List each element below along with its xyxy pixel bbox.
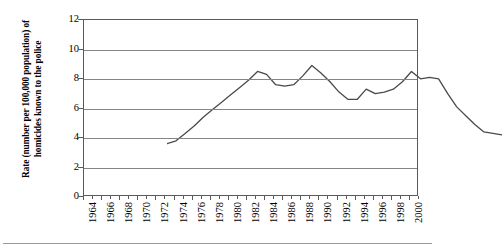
- x-axis-tick-mark: [346, 196, 347, 199]
- x-axis-tick-label: 1972: [159, 202, 170, 223]
- x-axis-tick-label: 1984: [268, 202, 279, 223]
- y-axis-tick-label: 10: [57, 44, 79, 54]
- x-axis-tick-mark: [128, 196, 129, 199]
- y-axis-tick-label: 4: [57, 132, 79, 142]
- x-axis-tick-mark: [291, 196, 292, 199]
- x-axis-tick-label: 1970: [141, 202, 152, 223]
- y-axis-tick-label: 12: [57, 14, 79, 24]
- x-axis-tick-mark: [273, 196, 274, 199]
- x-axis-tick-label: 1980: [232, 202, 243, 223]
- x-axis-tick-mark: [309, 196, 310, 199]
- x-axis-tick-mark: [373, 196, 374, 200]
- x-axis-tick-mark: [137, 196, 138, 200]
- x-axis-tick-mark: [355, 196, 356, 200]
- x-axis-tick-label: 1988: [304, 202, 315, 223]
- y-axis-tick-label: 8: [57, 73, 79, 83]
- y-axis-tick-mark: [78, 167, 83, 168]
- x-axis-tick-mark: [418, 196, 419, 199]
- x-axis-tick-mark: [146, 196, 147, 199]
- x-axis-tick-label: 1968: [123, 202, 134, 223]
- x-axis-tick-mark: [201, 196, 202, 199]
- x-axis-tick-mark: [83, 196, 84, 200]
- x-axis-tick-mark: [400, 196, 401, 199]
- x-axis-tick-label: 1996: [377, 202, 388, 223]
- x-axis-tick-mark: [327, 196, 328, 199]
- x-axis-tick-mark: [219, 196, 220, 199]
- x-axis-tick-mark: [92, 196, 93, 199]
- y-axis-tick-mark: [78, 49, 83, 50]
- x-axis-tick-mark: [183, 196, 184, 199]
- x-axis-tick-label: 1992: [341, 202, 352, 223]
- x-axis-tick-label: 1986: [286, 202, 297, 223]
- x-axis-tick-label: 1998: [395, 202, 406, 223]
- x-axis-tick-label: 1990: [322, 202, 333, 223]
- y-axis-tick-mark: [78, 108, 83, 109]
- y-axis-tick-label: 6: [57, 103, 79, 113]
- x-axis-tick-label: 1974: [178, 202, 189, 223]
- x-axis-tick-mark: [409, 196, 410, 200]
- x-axis-tick-mark: [192, 196, 193, 200]
- figure-bottom-rule: [3, 243, 432, 244]
- y-axis-tick-mark: [78, 78, 83, 79]
- x-axis-tick-mark: [246, 196, 247, 200]
- x-axis-tick-mark: [164, 196, 165, 199]
- x-axis-tick-mark: [210, 196, 211, 200]
- y-axis-tick-label: 2: [57, 162, 79, 172]
- x-axis-tick-mark: [318, 196, 319, 200]
- x-axis-tick-mark: [364, 196, 365, 199]
- x-axis-tick-label: 1978: [214, 202, 225, 223]
- y-axis-tick-mark: [78, 19, 83, 20]
- x-axis-tick-mark: [391, 196, 392, 200]
- x-axis-tick-mark: [110, 196, 111, 199]
- x-axis-tick-mark: [264, 196, 265, 200]
- x-axis-tick-mark: [337, 196, 338, 200]
- x-axis-tick-label: 1994: [359, 202, 370, 223]
- x-axis-tick-label: 1966: [105, 202, 116, 223]
- x-axis-tick-mark: [255, 196, 256, 199]
- x-axis-tick-mark: [282, 196, 283, 200]
- x-axis-tick-mark: [228, 196, 229, 200]
- y-axis-tick-label: 0: [57, 191, 79, 201]
- x-axis-tick-mark: [119, 196, 120, 200]
- x-axis-tick-mark: [174, 196, 175, 200]
- x-axis-tick-label: 2000: [413, 202, 424, 223]
- x-axis-tick-mark: [237, 196, 238, 199]
- x-axis-tick-mark: [155, 196, 156, 200]
- x-axis-tick-mark: [101, 196, 102, 200]
- x-axis-tick-mark: [300, 196, 301, 200]
- x-axis-tick-mark: [382, 196, 383, 199]
- x-axis-tick-label: 1976: [196, 202, 207, 223]
- y-axis-tick-mark: [78, 137, 83, 138]
- x-axis-tick-label: 1982: [250, 202, 261, 223]
- x-axis-tick-label: 1964: [87, 202, 98, 223]
